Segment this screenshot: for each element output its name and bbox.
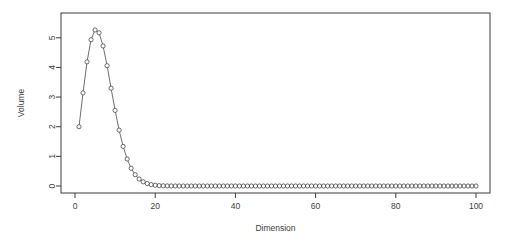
y-tick-label: 5 bbox=[47, 35, 57, 40]
x-tick-label: 60 bbox=[311, 201, 321, 211]
x-tick-label: 20 bbox=[150, 201, 160, 211]
y-tick-label: 4 bbox=[47, 65, 57, 70]
x-tick-label: 80 bbox=[391, 201, 401, 211]
y-tick-label: 0 bbox=[47, 183, 57, 188]
y-tick-label: 2 bbox=[47, 124, 57, 129]
x-tick-label: 100 bbox=[469, 201, 483, 211]
y-axis-title: Volume bbox=[16, 89, 26, 118]
plot-svg: 012345 020406080100 Dimension Volume bbox=[0, 0, 515, 249]
x-tick-label: 40 bbox=[231, 201, 241, 211]
y-tick-label: 3 bbox=[47, 94, 57, 99]
chart-background bbox=[0, 0, 515, 249]
y-tick-label: 1 bbox=[47, 154, 57, 159]
x-axis-title: Dimension bbox=[255, 223, 295, 233]
chart-container: 012345 020406080100 Dimension Volume bbox=[0, 0, 515, 249]
x-tick-label: 0 bbox=[73, 201, 78, 211]
